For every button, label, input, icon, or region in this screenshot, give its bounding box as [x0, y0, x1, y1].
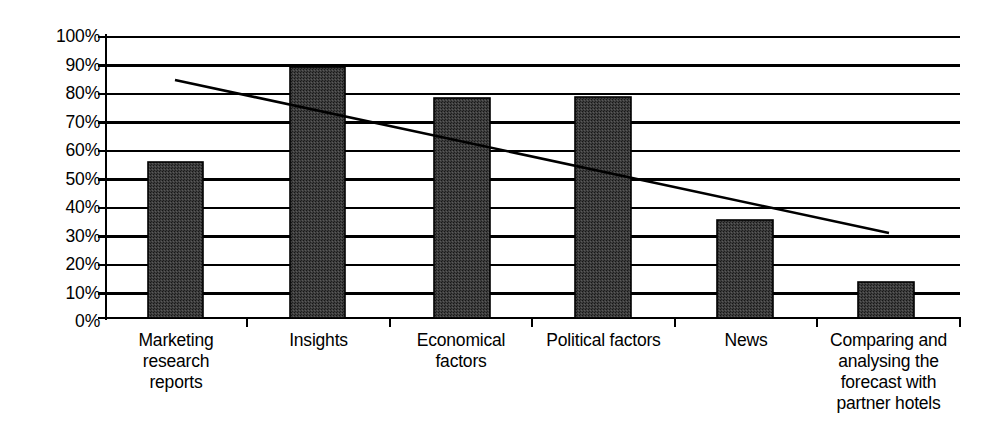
- x-category-label-news: News: [675, 330, 817, 351]
- x-axis-category-labels: Marketing research reports Insights Econ…: [0, 0, 995, 427]
- x-category-line: Economical: [390, 330, 532, 351]
- x-category-line: factors: [390, 351, 532, 372]
- x-category-line: reports: [105, 372, 247, 393]
- x-category-line: partner hotels: [817, 393, 960, 414]
- x-category-label-economical-factors: Economical factors: [390, 330, 532, 372]
- x-category-line: Comparing and: [817, 330, 960, 351]
- x-category-label-marketing-research-reports: Marketing research reports: [105, 330, 247, 393]
- x-category-label-political-factors: Political factors: [530, 330, 677, 351]
- x-category-line: Marketing: [105, 330, 247, 351]
- x-category-line: research: [105, 351, 247, 372]
- x-category-line: analysing the: [817, 351, 960, 372]
- x-category-label-comparing-analysing-forecast: Comparing and analysing the forecast wit…: [817, 330, 960, 414]
- x-category-line: Insights: [247, 330, 390, 351]
- x-category-label-insights: Insights: [247, 330, 390, 351]
- bar-chart: 100% 90% 80% 70% 60% 50% 40% 30% 20% 10%…: [0, 0, 995, 427]
- x-category-line: forecast with: [817, 372, 960, 393]
- x-category-line: Political factors: [530, 330, 677, 351]
- x-category-line: News: [675, 330, 817, 351]
